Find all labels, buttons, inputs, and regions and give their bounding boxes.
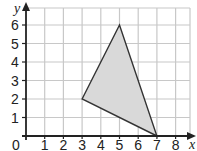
- y-tick-label: 5: [11, 36, 19, 52]
- y-tick-label: 2: [11, 91, 19, 107]
- coordinate-diagram: 012345678123456 x y: [0, 0, 197, 151]
- x-tick-label: 1: [41, 137, 49, 151]
- x-tick-label: 3: [78, 137, 86, 151]
- y-tick-label: 4: [11, 54, 19, 70]
- x-tick-label: 4: [97, 137, 105, 151]
- y-tick-label: 3: [11, 73, 19, 89]
- x-tick-label: 5: [116, 137, 124, 151]
- x-tick-label: 0: [12, 137, 20, 151]
- x-tick-label: 2: [60, 137, 68, 151]
- x-tick-label: 7: [153, 137, 161, 151]
- x-tick-label: 8: [172, 137, 180, 151]
- x-axis-label: x: [188, 137, 196, 151]
- y-axis-label: y: [12, 1, 21, 16]
- x-tick-label: 6: [134, 137, 142, 151]
- y-axis-arrow-icon: [22, 2, 30, 11]
- y-tick-label: 1: [11, 110, 19, 126]
- y-tick-label: 6: [11, 17, 19, 33]
